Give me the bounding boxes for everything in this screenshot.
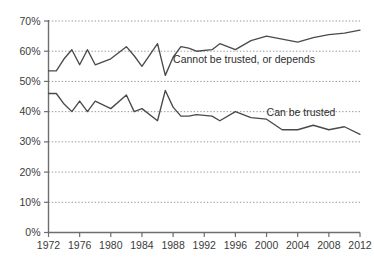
series-annotations-group: Cannot be trusted, or dependsCan be trus… — [173, 53, 335, 118]
x-tick-label-1976: 1976 — [68, 239, 92, 251]
y-tick-label-70: 70% — [19, 15, 40, 27]
y-tick-label-30: 30% — [19, 135, 40, 147]
data-series-group — [49, 30, 361, 134]
x-tick-label-2012: 2012 — [348, 239, 372, 251]
y-tick-label-10: 10% — [19, 196, 40, 208]
y-tick-label-0: 0% — [25, 226, 40, 238]
series-label-0: Cannot be trusted, or depends — [173, 53, 315, 65]
x-tick-label-1972: 1972 — [37, 239, 61, 251]
x-tick-label-1996: 1996 — [224, 239, 248, 251]
x-tick-label-2000: 2000 — [255, 239, 279, 251]
series-label-1: Can be trusted — [267, 106, 336, 118]
x-tick-label-1988: 1988 — [161, 239, 185, 251]
x-tick-label-2008: 2008 — [317, 239, 341, 251]
x-tick-label-2004: 2004 — [286, 239, 310, 251]
y-tick-label-50: 50% — [19, 75, 40, 87]
y-tick-label-20: 20% — [19, 166, 40, 178]
y-tick-label-60: 60% — [19, 45, 40, 57]
y-axis-ticks-group: 0%10%20%30%40%50%60%70% — [19, 15, 48, 239]
y-tick-label-40: 40% — [19, 105, 40, 117]
x-axis-ticks-group: 1972197619801984198819921996200020042008… — [37, 233, 372, 251]
x-tick-label-1984: 1984 — [130, 239, 154, 251]
trust-in-government-line-chart: 0%10%20%30%40%50%60%70% 1972197619801984… — [0, 0, 374, 269]
x-tick-label-1980: 1980 — [99, 239, 123, 251]
chart-canvas: 0%10%20%30%40%50%60%70% 1972197619801984… — [0, 0, 374, 269]
x-tick-label-1992: 1992 — [193, 239, 217, 251]
